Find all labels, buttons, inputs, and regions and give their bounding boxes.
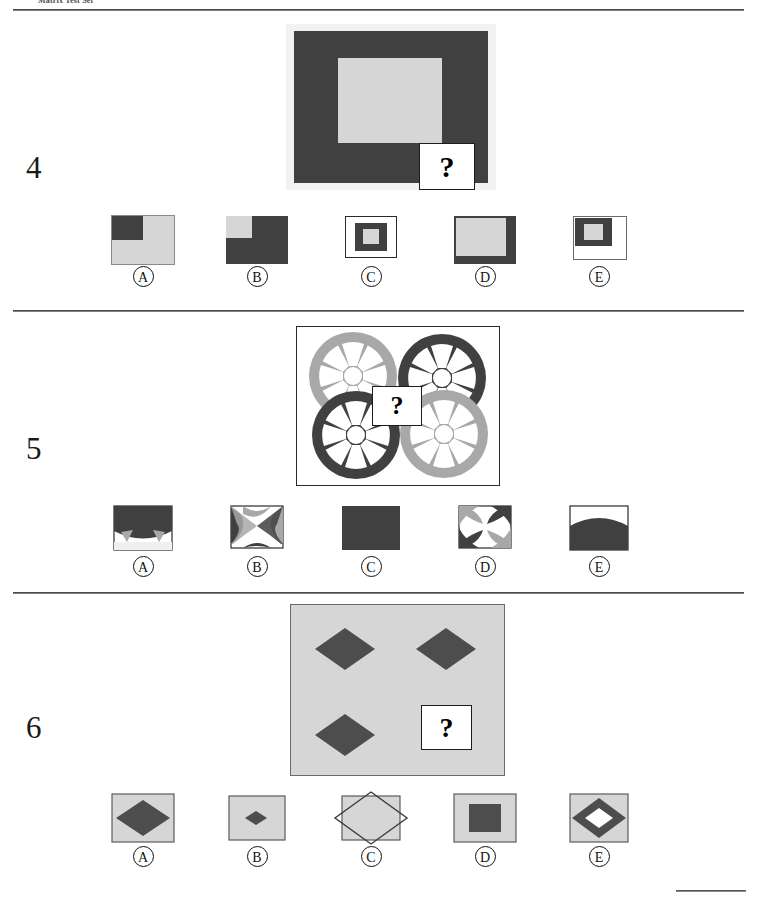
option-e-item-4-art (539, 210, 659, 266)
option-a-item-6-svg (83, 790, 203, 846)
option-d-item-5-art (425, 500, 545, 556)
option-letter-circle: C (361, 846, 382, 867)
option-d-item-6-letter: D (425, 846, 545, 867)
option-a-item-6[interactable]: A (83, 790, 203, 870)
option-c-item-4-inner (363, 229, 379, 244)
item-number-6: 6 (26, 712, 42, 743)
option-d-item-4-letter: D (425, 266, 545, 287)
option-e-item-4-inner (584, 224, 603, 240)
answer-row-item-6: A B C (0, 790, 757, 870)
option-d-item-5[interactable]: D (425, 500, 545, 580)
option-e-item-6-svg (539, 790, 659, 846)
option-b-item-5-letter: B (197, 556, 317, 577)
option-d-item-6[interactable]: D (425, 790, 545, 870)
option-e-item-5-letter: E (539, 556, 659, 577)
footer-rule (676, 890, 746, 892)
stimulus-item-6: ? (290, 604, 505, 776)
option-c-item-6-art (311, 790, 431, 846)
option-c-item-5-fill (342, 506, 400, 550)
diamond-bottom-left (315, 714, 375, 756)
stimulus-item-4: ? (286, 24, 496, 190)
option-c-item-5-art (311, 500, 431, 556)
option-b-item-6-letter: B (197, 846, 317, 867)
question-mark-box-item-4: ? (419, 143, 475, 190)
option-a-item-4-letter: A (83, 266, 203, 287)
option-c-item-5-letter: C (311, 556, 431, 577)
option-d-item-5-letter: D (425, 556, 545, 577)
diamond-top-left (315, 628, 375, 670)
item-number-4: 4 (26, 152, 42, 183)
option-c-item-4-letter: C (311, 266, 431, 287)
option-letter-circle: A (133, 846, 154, 867)
option-a-item-6-art (83, 790, 203, 846)
option-a-item-6-letter: A (83, 846, 203, 867)
stimulus-6-diamonds (290, 604, 505, 776)
option-b-item-6-svg (197, 790, 317, 846)
option-e-item-5[interactable]: E (539, 500, 659, 580)
option-letter-circle: E (589, 846, 610, 867)
option-letter-circle: D (475, 846, 496, 867)
option-e-item-4-letter: E (539, 266, 659, 287)
option-letter-circle: B (247, 266, 268, 287)
option-c-item-6-svg (311, 790, 431, 846)
option-a-item-5-svg (83, 500, 203, 556)
option-letter-circle: E (589, 556, 610, 577)
option-letter-circle: D (475, 266, 496, 287)
option-d-item-6-svg (425, 790, 545, 846)
option-b-item-6-art (197, 790, 317, 846)
option-d-item-6-art (425, 790, 545, 846)
option-c-item-6[interactable]: C (311, 790, 431, 870)
option-letter-circle: B (247, 846, 268, 867)
option-b-item-5-svg (197, 500, 317, 556)
option-e-item-6-art (539, 790, 659, 846)
option-a-item-4[interactable]: A (83, 210, 203, 290)
question-mark-box-item-6: ? (421, 705, 472, 750)
option-e-item-6-letter: E (539, 846, 659, 867)
header-divider-rule (13, 9, 744, 11)
option-letter-circle: D (475, 556, 496, 577)
option-letter-circle: A (133, 556, 154, 577)
question-mark-box-item-5: ? (372, 386, 422, 426)
option-a-item-5[interactable]: A (83, 500, 203, 580)
item-number-5: 5 (26, 433, 42, 464)
option-letter-circle: E (589, 266, 610, 287)
answer-row-item-4: A B C (0, 210, 757, 290)
option-c-item-5[interactable]: C (311, 500, 431, 580)
option-d-item-4[interactable]: D (425, 210, 545, 290)
option-a-item-4-art (83, 210, 203, 266)
page-header-title: Matrix Test Set (38, 0, 93, 5)
stimulus-4-inner-square (338, 58, 442, 143)
diamond-top-right (416, 628, 476, 670)
option-b-item-5-art (197, 500, 317, 556)
option-c-item-4[interactable]: C (311, 210, 431, 290)
option-a-item-5-art (83, 500, 203, 556)
option-d-item-4-art (425, 210, 545, 266)
option-letter-circle: C (361, 556, 382, 577)
stimulus-item-5: ? (296, 326, 500, 486)
option-e-item-4[interactable]: E (539, 210, 659, 290)
option-c-item-6-letter: C (311, 846, 431, 867)
option-e-item-6[interactable]: E (539, 790, 659, 870)
option-e-item-5-svg (539, 500, 659, 556)
answer-row-item-5: A B (0, 500, 757, 580)
option-e-item-5-art (539, 500, 659, 556)
option-a-item-4-quadrant (112, 216, 143, 240)
option-b-item-4-quadrant (226, 216, 252, 238)
option-b-item-5[interactable]: B (197, 500, 317, 580)
option-letter-circle: C (361, 266, 382, 287)
test-page: Matrix Test Set 4 ? A (0, 0, 757, 901)
option-letter-circle: A (133, 266, 154, 287)
option-letter-circle: B (247, 556, 268, 577)
option-b-item-6[interactable]: B (197, 790, 317, 870)
option-a-item-5-letter: A (83, 556, 203, 577)
option-b-item-4[interactable]: B (197, 210, 317, 290)
option-d-item-5-svg (425, 500, 545, 556)
option-b-item-4-art (197, 210, 317, 266)
option-c-item-4-art (311, 210, 431, 266)
section-divider-2 (13, 592, 744, 594)
option-b-item-4-letter: B (197, 266, 317, 287)
section-divider-1 (13, 310, 744, 312)
option-d-item-4-inner (456, 218, 506, 256)
